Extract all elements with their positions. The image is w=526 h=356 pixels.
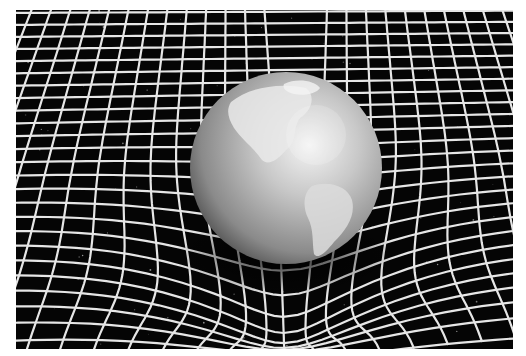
star	[291, 18, 292, 19]
star	[25, 114, 27, 116]
star	[456, 331, 457, 332]
star	[414, 149, 415, 150]
star	[136, 186, 137, 187]
star	[217, 85, 218, 86]
star	[349, 63, 350, 64]
star	[146, 89, 148, 91]
grid-line-vertical	[158, 284, 190, 349]
scene-svg	[16, 10, 513, 349]
star	[233, 294, 234, 295]
star	[47, 130, 48, 131]
star	[323, 43, 324, 44]
star	[41, 129, 42, 130]
grid-line-vertical	[151, 10, 172, 275]
star	[82, 255, 84, 257]
earth-sphere	[190, 72, 382, 264]
star	[342, 35, 343, 36]
star	[460, 202, 461, 203]
star	[492, 184, 493, 185]
spacetime-earth-image	[16, 10, 513, 349]
star	[428, 70, 429, 71]
star	[437, 264, 438, 265]
grid-line-vertical	[23, 261, 56, 350]
star	[180, 19, 181, 20]
star	[122, 143, 124, 145]
star	[476, 301, 478, 303]
star	[493, 216, 494, 217]
grid-line-horizontal	[16, 54, 513, 62]
grid-line-vertical	[401, 10, 422, 266]
star	[134, 309, 135, 310]
star	[100, 343, 101, 344]
sphere-highlight	[286, 105, 346, 165]
star	[261, 27, 262, 28]
star	[344, 304, 345, 305]
star	[99, 22, 100, 23]
star	[149, 269, 151, 271]
star	[78, 256, 80, 258]
grid-line-horizontal	[16, 32, 513, 37]
star	[148, 334, 149, 335]
star	[343, 61, 345, 63]
grid-line-vertical	[16, 260, 24, 350]
star	[473, 219, 475, 221]
star	[167, 317, 169, 319]
grid-line-horizontal	[16, 43, 513, 50]
star	[420, 217, 421, 218]
star	[203, 322, 205, 324]
grid-line-vertical	[419, 10, 449, 256]
star	[107, 232, 108, 233]
grid-line-horizontal	[16, 65, 513, 74]
star	[190, 128, 191, 129]
star	[54, 308, 55, 309]
star	[286, 345, 288, 347]
